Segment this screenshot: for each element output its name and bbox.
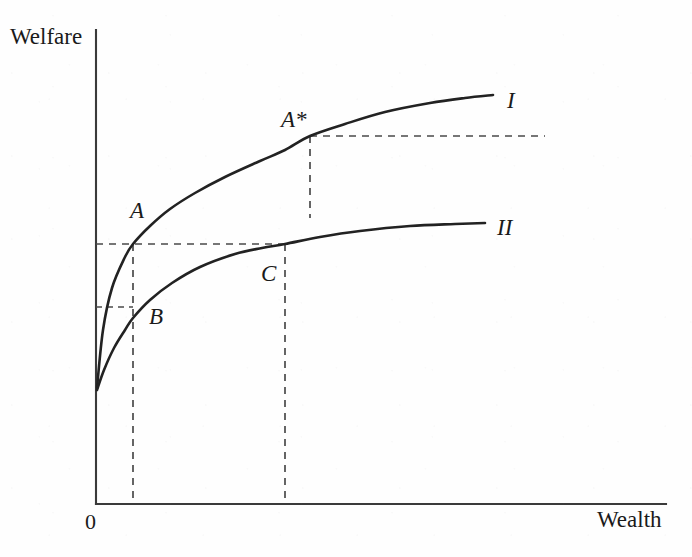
point-label-c: C (261, 262, 276, 285)
x-axis-title: Wealth (597, 508, 662, 531)
point-label-a: A (130, 199, 144, 222)
point-label-b: B (149, 305, 163, 328)
welfare-wealth-figure: Welfare Wealth 0 A B C A* I II (0, 0, 692, 557)
chart-canvas (0, 0, 692, 557)
y-axis-title: Welfare (10, 25, 82, 48)
curve-label-two: II (497, 216, 512, 239)
guide-lines-group (96, 136, 545, 504)
origin-label: 0 (85, 511, 96, 533)
point-label-a-star: A* (281, 108, 307, 131)
curves-group (97, 95, 493, 390)
curve-label-one: I (507, 89, 515, 112)
axes-group (96, 30, 666, 504)
